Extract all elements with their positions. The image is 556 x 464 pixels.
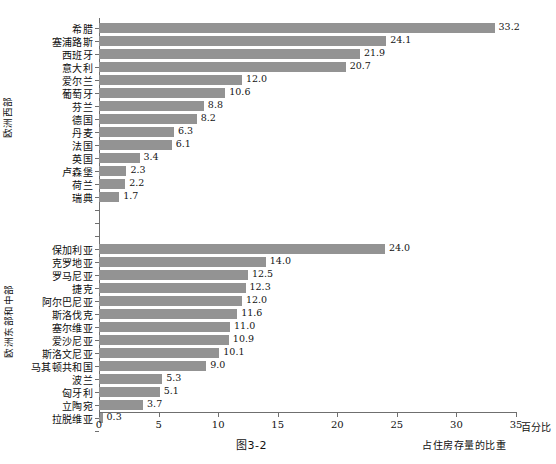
bar bbox=[99, 322, 230, 332]
x-axis-tick bbox=[278, 412, 279, 417]
bar-value-label: 8.2 bbox=[201, 112, 216, 123]
bar-value-label: 12.0 bbox=[246, 294, 267, 305]
y-axis-tick bbox=[95, 223, 99, 224]
x-axis-tick bbox=[516, 412, 517, 417]
bar bbox=[99, 400, 143, 410]
x-axis-tick-label: 15 bbox=[263, 419, 293, 430]
bar bbox=[99, 36, 386, 46]
x-axis-tick bbox=[337, 412, 338, 417]
bar-value-label: 14.0 bbox=[270, 255, 291, 266]
bar bbox=[99, 101, 204, 111]
bar bbox=[99, 23, 495, 33]
bar-value-label: 10.6 bbox=[229, 86, 250, 97]
bar-value-label: 21.9 bbox=[364, 47, 385, 58]
figure-caption: 图3-2 bbox=[236, 436, 267, 452]
bar bbox=[99, 257, 266, 267]
bar-value-label: 12.3 bbox=[250, 281, 271, 292]
bar-value-label: 10.9 bbox=[233, 333, 254, 344]
bar bbox=[99, 62, 346, 72]
bar-value-label: 11.6 bbox=[241, 307, 262, 318]
bar bbox=[99, 75, 242, 85]
bar-value-label: 6.3 bbox=[178, 125, 193, 136]
bar bbox=[99, 166, 126, 176]
plot-area: 希腊33.2塞浦路斯24.1西班牙21.9意大利20.7爱尔兰12.0葡萄牙10… bbox=[99, 18, 516, 413]
x-axis-unit-label: 百分比 bbox=[521, 419, 551, 434]
y-axis-tick bbox=[95, 210, 99, 211]
bar bbox=[99, 244, 385, 254]
bar bbox=[99, 283, 246, 293]
bar bbox=[99, 49, 360, 59]
figure-container: 欧洲西部 欧洲东部和中部 希腊33.2塞浦路斯24.1西班牙21.9意大利20.… bbox=[0, 0, 556, 464]
bar bbox=[99, 114, 197, 124]
bar bbox=[99, 270, 248, 280]
x-axis-tick-label: 10 bbox=[203, 419, 233, 430]
bar-value-label: 20.7 bbox=[350, 60, 371, 71]
x-axis-tick-label: 20 bbox=[322, 419, 352, 430]
bar bbox=[99, 361, 206, 371]
bar bbox=[99, 309, 237, 319]
bar-value-label: 24.0 bbox=[389, 242, 410, 253]
category-label: 瑞典 bbox=[72, 190, 93, 205]
group-label-western-europe: 欧洲西部 bbox=[0, 81, 14, 153]
bar-value-label: 10.1 bbox=[223, 346, 244, 357]
bar bbox=[99, 179, 125, 189]
bar-value-label: 5.3 bbox=[166, 372, 181, 383]
x-axis-tick-label: 0 bbox=[84, 419, 114, 430]
bar-value-label: 6.1 bbox=[176, 138, 191, 149]
x-axis-tick-label: 25 bbox=[382, 419, 412, 430]
bar bbox=[99, 374, 162, 384]
bar-value-label: 12.5 bbox=[252, 268, 273, 279]
bar bbox=[99, 88, 225, 98]
x-axis-tick bbox=[159, 412, 160, 417]
bar bbox=[99, 127, 174, 137]
x-axis-tick bbox=[397, 412, 398, 417]
x-axis-tick-label: 30 bbox=[441, 419, 471, 430]
bar-value-label: 1.7 bbox=[123, 190, 138, 201]
bar bbox=[99, 335, 229, 345]
x-axis-tick bbox=[218, 412, 219, 417]
bar-value-label: 24.1 bbox=[390, 34, 411, 45]
bar bbox=[99, 192, 119, 202]
top-clipped-text bbox=[100, 0, 460, 5]
bar-value-label: 8.8 bbox=[208, 99, 223, 110]
bar bbox=[99, 296, 242, 306]
x-axis-tick bbox=[99, 412, 100, 417]
bar-value-label: 2.3 bbox=[130, 164, 145, 175]
y-axis-tick bbox=[95, 236, 99, 237]
bar-value-label: 11.0 bbox=[234, 320, 255, 331]
bar bbox=[99, 153, 140, 163]
y-axis-tick bbox=[95, 431, 99, 432]
bar-value-label: 3.4 bbox=[144, 151, 159, 162]
bar-value-label: 12.0 bbox=[246, 73, 267, 84]
bar bbox=[99, 387, 160, 397]
bar-value-label: 33.2 bbox=[499, 21, 520, 32]
bar-value-label: 3.7 bbox=[147, 398, 162, 409]
x-axis-tick bbox=[456, 412, 457, 417]
bar-value-label: 5.1 bbox=[164, 385, 179, 396]
bar bbox=[99, 140, 172, 150]
bar-value-label: 2.2 bbox=[129, 177, 144, 188]
x-axis-title: 占住房存量的比重 bbox=[422, 437, 506, 452]
x-axis-tick-label: 5 bbox=[144, 419, 174, 430]
bar-value-label: 9.0 bbox=[210, 359, 225, 370]
group-label-eastern-central-europe: 欧洲东部和中部 bbox=[1, 271, 15, 371]
bar bbox=[99, 348, 219, 358]
